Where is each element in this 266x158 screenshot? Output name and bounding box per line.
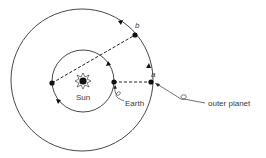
planet-position-a [148, 79, 153, 84]
arrow-icon [118, 20, 123, 25]
sun-label: Sun [76, 93, 90, 102]
outer-planet-label: outer planet [208, 99, 251, 108]
orbit-diagram: Sun a b Earth outer planet [0, 0, 266, 158]
arrow-icon [146, 63, 151, 68]
arrow-icon [155, 83, 160, 87]
sun-icon [75, 73, 91, 89]
sightline-b [52, 35, 135, 83]
point-a-label: a [151, 70, 156, 79]
earth-position-b [49, 80, 54, 85]
earth-position-a [111, 79, 116, 84]
planet-position-b [132, 32, 137, 37]
point-b-label: b [135, 21, 140, 30]
outer-planet-pointer [157, 84, 205, 103]
earth-label: Earth [125, 99, 144, 108]
